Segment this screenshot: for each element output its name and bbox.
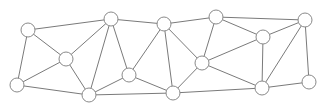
graph-edge-n10-n13	[173, 88, 262, 93]
graph-node-n5	[122, 68, 136, 82]
graph-node-n6	[82, 88, 96, 102]
graph-edge-n2-n4	[66, 19, 111, 59]
graph-node-n1	[21, 23, 35, 37]
graph-nodes	[10, 10, 316, 102]
graph-edge-n1-n4	[28, 19, 111, 30]
graph-node-n13	[255, 81, 269, 95]
graph-edge-n3-n6	[17, 85, 89, 95]
graph-node-n12	[298, 13, 312, 27]
graph-edge-n12-n14	[305, 20, 309, 82]
graph-edge-n8-n11	[216, 17, 263, 37]
graph-edge-n7-n10	[164, 24, 173, 93]
network-graph	[0, 0, 324, 108]
graph-node-n14	[302, 75, 316, 89]
graph-edge-n4-n7	[111, 19, 164, 24]
graph-edge-n4-n5	[111, 19, 129, 75]
graph-node-n10	[166, 86, 180, 100]
graph-edge-n4-n6	[89, 19, 111, 95]
graph-node-n8	[209, 10, 223, 24]
graph-edge-n9-n13	[202, 63, 262, 88]
graph-edge-n7-n9	[164, 24, 202, 63]
graph-node-n7	[157, 17, 171, 31]
graph-node-n11	[256, 30, 270, 44]
graph-edge-n12-n13	[262, 20, 305, 88]
graph-node-n4	[104, 12, 118, 26]
graph-edge-n1-n3	[17, 30, 28, 85]
graph-edge-n2-n3	[17, 59, 66, 85]
graph-edge-n8-n12	[216, 17, 305, 20]
graph-edge-n7-n8	[164, 17, 216, 24]
graph-node-n3	[10, 78, 24, 92]
graph-node-n2	[59, 52, 73, 66]
graph-edge-n9-n11	[202, 37, 263, 63]
graph-node-n9	[195, 56, 209, 70]
graph-edge-n6-n10	[89, 93, 173, 95]
graph-edge-n5-n7	[129, 24, 164, 75]
graph-edge-n11-n13	[262, 37, 263, 88]
